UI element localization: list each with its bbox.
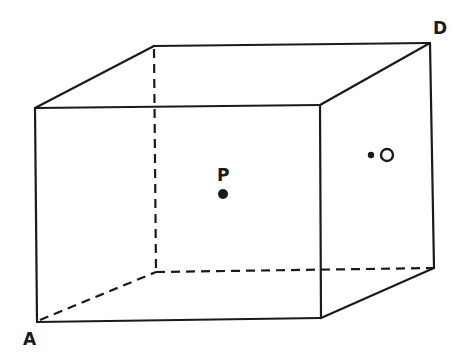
label-o-circle <box>381 149 393 161</box>
edge-front-left <box>35 108 37 322</box>
visible-edges <box>35 43 434 322</box>
label-d: D <box>433 18 447 38</box>
edge-front-top <box>35 105 320 108</box>
edge-top-right-slant <box>320 43 430 105</box>
edge-front-right <box>320 105 321 318</box>
edge-back-left-hidden <box>154 49 156 272</box>
edge-bottom-left-slant-hidden <box>40 272 156 320</box>
edge-top-left-slant <box>35 46 154 108</box>
cuboid-diagram: P O A D <box>0 0 468 358</box>
edge-front-bottom <box>37 318 321 322</box>
edge-back-bottom-hidden <box>156 268 434 272</box>
edge-bottom-right-slant <box>321 268 434 318</box>
edge-back-right <box>430 43 434 268</box>
hidden-edges <box>40 49 434 320</box>
edge-back-top <box>154 43 430 46</box>
point-p-dot <box>218 189 228 199</box>
label-p: P <box>217 165 229 185</box>
label-a: A <box>23 329 37 349</box>
point-o-dot <box>368 152 374 158</box>
